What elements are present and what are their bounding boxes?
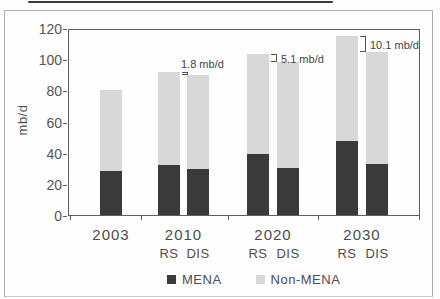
scenario-label-2030-rs: RS [332, 246, 362, 261]
annotation-bracket-2020 [271, 54, 277, 62]
annotation-label-2020: 5.1 mb/d [281, 53, 324, 65]
y-tick-label: 20 [32, 178, 62, 192]
bar-2003-mena [100, 171, 122, 215]
year-label-2020: 2020 [243, 226, 303, 243]
year-label-2010: 2010 [154, 226, 214, 243]
mena-swatch [167, 275, 176, 284]
x-tick-mark [419, 216, 420, 220]
legend-label-mena: MENA [182, 272, 222, 287]
scenario-label-2030-dis: DIS [362, 246, 392, 261]
legend: MENA Non-MENA [167, 272, 340, 287]
scenario-label-2020-rs: RS [243, 246, 273, 261]
y-tick-label: 80 [32, 84, 62, 98]
x-tick-mark [70, 216, 71, 220]
bar-2030-rs-mena [336, 141, 358, 215]
bar-2020-dis-mena [277, 168, 299, 215]
legend-label-nonmena: Non-MENA [271, 272, 341, 287]
legend-item-mena: MENA [167, 272, 222, 287]
y-tick-label: 40 [32, 147, 62, 161]
y-tick-mark [63, 154, 67, 155]
scan-artifact-bottom-line [6, 296, 433, 297]
annotation-bracket-2010 [182, 72, 188, 75]
non-mena-swatch [256, 275, 265, 284]
annotation-bracket-2030 [360, 36, 366, 52]
x-tick-mark [141, 216, 142, 220]
bar-2020-rs-mena [247, 154, 269, 215]
bar-2010-dis-mena [187, 169, 209, 215]
y-tick-mark [63, 216, 67, 217]
y-tick-label: 0 [32, 209, 62, 223]
bar-2010-rs-nonmena [158, 72, 180, 165]
annotation-label-2010: 1.8 mb/d [181, 58, 224, 70]
scenario-label-2020-dis: DIS [273, 246, 303, 261]
scanned-figure-page: mb/d 0204060801001202003RSDIS2010RSDIS20… [0, 0, 440, 299]
y-tick-mark [63, 29, 67, 30]
y-tick-label: 100 [32, 53, 62, 67]
bar-2030-rs-nonmena [336, 36, 358, 141]
y-tick-mark [63, 185, 67, 186]
year-label-2030: 2030 [332, 226, 392, 243]
y-tick-mark [63, 123, 67, 124]
bar-2003-nonmena [100, 90, 122, 171]
bar-chart: 0204060801001202003RSDIS2010RSDIS2020RSD… [0, 0, 440, 299]
year-label-2003: 2003 [81, 226, 141, 243]
bar-2030-dis-nonmena [366, 52, 388, 164]
x-tick-mark [318, 216, 319, 220]
bar-2010-rs-mena [158, 165, 180, 215]
y-tick-label: 120 [32, 22, 62, 36]
y-tick-label: 60 [32, 116, 62, 130]
y-tick-mark [63, 60, 67, 61]
bar-2020-rs-nonmena [247, 54, 269, 154]
legend-item-nonmena: Non-MENA [256, 272, 341, 287]
bar-2030-dis-mena [366, 164, 388, 215]
x-tick-mark [228, 216, 229, 220]
y-tick-mark [63, 91, 67, 92]
scenario-label-2010-dis: DIS [183, 246, 213, 261]
annotation-label-2030: 10.1 mb/d [370, 39, 419, 51]
bar-2010-dis-nonmena [187, 75, 209, 170]
bar-2020-dis-nonmena [277, 62, 299, 168]
scenario-label-2010-rs: RS [154, 246, 184, 261]
